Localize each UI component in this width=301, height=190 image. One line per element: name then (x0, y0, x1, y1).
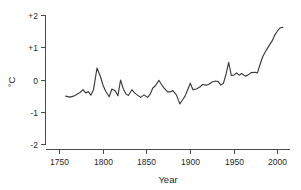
y-axis-ticks (41, 16, 46, 145)
temperature-anomaly-chart: +2 +1 0 -1 -2 °C 1750 1800 1850 1900 195… (0, 0, 301, 190)
x-tick-label: 2000 (268, 157, 287, 167)
y-axis-title: °C (6, 77, 17, 88)
chart-canvas: +2 +1 0 -1 -2 °C 1750 1800 1850 1900 195… (0, 0, 301, 190)
x-axis-tick-labels: 1750 1800 1850 1900 1950 2000 (50, 157, 287, 167)
temperature-line-series (66, 27, 283, 103)
x-axis-title: Year (158, 174, 177, 185)
x-tick-label: 1850 (137, 157, 156, 167)
x-tick-label: 1950 (225, 157, 244, 167)
y-tick-label: 0 (33, 76, 38, 86)
y-axis-tick-labels: +2 +1 0 -1 -2 (28, 11, 38, 150)
y-tick-label: -2 (30, 140, 38, 150)
x-tick-label: 1800 (94, 157, 113, 167)
y-tick-label: +2 (28, 11, 38, 21)
x-tick-label: 1750 (50, 157, 69, 167)
y-tick-label: +1 (28, 43, 38, 53)
x-axis-ticks (60, 150, 278, 155)
y-tick-label: -1 (30, 108, 38, 118)
x-tick-label: 1900 (181, 157, 200, 167)
